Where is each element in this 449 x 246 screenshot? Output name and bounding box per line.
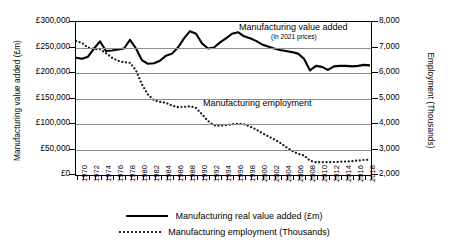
annotation-value-added-subtitle: (In 2021 prices) [271,33,317,40]
y-axis-right-tick-label: 2,000 [379,170,419,178]
y-axis-left-tick-label: £150,000 [14,94,70,102]
legend-swatch-dotted-line [119,231,161,233]
gridline [76,73,371,74]
gridline [76,150,371,151]
y-axis-left-tick-label: £300,000 [14,17,70,25]
annotation-value-added: Manufacturing value added [239,22,348,32]
legend-label-value-added: Manufacturing real value added (£m) [175,211,322,221]
legend-item-value-added: Manufacturing real value added (£m) [0,208,449,224]
y-axis-right-tick-mark [372,72,378,73]
series-line-value-added [76,31,370,70]
chart-legend: Manufacturing real value added (£m) Manu… [0,208,449,240]
y-axis-right-tick-mark [372,98,378,99]
annotation-employment: Manufacturing employment [203,98,312,108]
y-axis-left-tick-label: £100,000 [14,119,70,127]
legend-label-employment: Manufacturing employment (Thousands) [168,227,330,237]
x-axis-tick-mark [77,176,78,180]
chart-container: Manufacturing value added (£m) Employmen… [0,0,449,246]
gridline [76,48,371,49]
y-axis-right-tick-label: 6,000 [379,68,419,76]
y-axis-left-tick-label: £0 [14,170,70,178]
legend-item-employment: Manufacturing employment (Thousands) [0,224,449,240]
y-axis-right-title-text: Employment (Thousands) [427,52,436,148]
y-axis-right-tick-mark [372,149,378,150]
y-axis-right-title: Employment (Thousands) [424,22,438,178]
y-axis-left-tick-label: £250,000 [14,43,70,51]
y-axis-right-tick-label: 4,000 [379,119,419,127]
gridline [76,124,371,125]
y-axis-right-tick-label: 7,000 [379,43,419,51]
y-axis-right-tick-label: 3,000 [379,145,419,153]
y-axis-right-tick-label: 8,000 [379,17,419,25]
y-axis-left-tick-label: £200,000 [14,68,70,76]
y-axis-right-tick-mark [372,47,378,48]
y-axis-right-tick-mark [372,123,378,124]
legend-swatch-solid-line [126,215,168,217]
y-axis-right-tick-mark [372,21,378,22]
y-axis-left-tick-label: £50,000 [14,145,70,153]
y-axis-right-tick-label: 5,000 [379,94,419,102]
